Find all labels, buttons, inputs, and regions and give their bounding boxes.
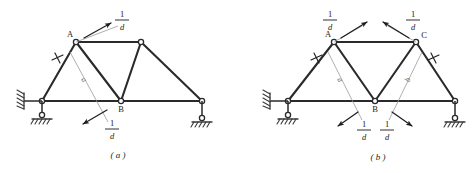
svg-text:d: d bbox=[362, 132, 367, 142]
right-diagonal-b bbox=[416, 42, 455, 101]
diagonal-ab-a bbox=[76, 42, 121, 101]
force-arrow-lower-panel-a bbox=[83, 110, 107, 124]
caption-panel-a: ( a ) bbox=[111, 150, 126, 160]
force-label-lower-left-panel-b: 1 d bbox=[357, 119, 371, 142]
svg-text:1: 1 bbox=[328, 9, 332, 19]
force-arrow-lower-right-panel-b bbox=[392, 112, 412, 126]
force-label-upper-right-panel-b: 1 d bbox=[406, 9, 420, 32]
svg-text:1: 1 bbox=[362, 119, 366, 129]
guide-line-upper-panel-a bbox=[76, 26, 118, 42]
right-diagonal-a bbox=[141, 42, 202, 101]
diagonal-bc-b bbox=[375, 42, 416, 101]
force-arrow-lower-left-panel-b bbox=[338, 112, 358, 126]
tick-mark-panel-a bbox=[52, 53, 63, 63]
svg-text:d: d bbox=[328, 22, 333, 32]
force-label-lower-right-panel-b: 1 d bbox=[380, 119, 394, 142]
joint-b-panel-b bbox=[372, 98, 377, 103]
panel-b: A B C a b 1 d 1 d 1 d bbox=[263, 9, 465, 162]
right-support-panel-a bbox=[191, 101, 212, 127]
guide-line-b-panel-b bbox=[389, 52, 422, 120]
left-diagonal-b bbox=[288, 42, 334, 101]
svg-text:d: d bbox=[110, 131, 115, 141]
diagonal-b-top-a bbox=[121, 42, 141, 101]
guide-line-a-panel-a bbox=[70, 52, 108, 122]
left-diagonal-a bbox=[42, 42, 76, 101]
member-label-a-panel-a: a bbox=[79, 76, 89, 84]
svg-text:1: 1 bbox=[120, 9, 124, 19]
member-label-b-panel-b: b bbox=[403, 76, 413, 84]
force-label-lower-panel-a: 1 d bbox=[105, 118, 119, 141]
figure-root: A B a 1 d 1 d ( a ) bbox=[0, 0, 475, 173]
force-label-upper-panel-a: 1 d bbox=[115, 9, 129, 32]
force-arrow-upper-left-panel-b bbox=[341, 22, 367, 38]
node-label-a-panel-a: A bbox=[67, 29, 74, 39]
svg-text:1: 1 bbox=[411, 9, 415, 19]
truss-figure-svg: A B a 1 d 1 d ( a ) bbox=[0, 0, 475, 173]
panel-a: A B a 1 d 1 d ( a ) bbox=[17, 9, 212, 160]
joint-b-panel-a bbox=[118, 98, 123, 103]
right-support-panel-b bbox=[444, 101, 465, 127]
svg-text:1: 1 bbox=[110, 118, 114, 128]
svg-text:d: d bbox=[411, 22, 416, 32]
joint-top-right-panel-a bbox=[138, 39, 143, 44]
left-support-panel-a bbox=[17, 90, 52, 124]
svg-text:1: 1 bbox=[385, 119, 389, 129]
guide-line-a-panel-b bbox=[328, 52, 362, 120]
svg-text:d: d bbox=[385, 132, 390, 142]
diagonal-ab-b bbox=[334, 42, 375, 101]
svg-text:d: d bbox=[120, 22, 125, 32]
caption-panel-b: ( b ) bbox=[371, 152, 386, 162]
node-label-b-panel-a: B bbox=[118, 104, 124, 114]
force-arrow-upper-right-panel-b bbox=[383, 22, 409, 38]
node-label-b-panel-b: B bbox=[372, 104, 378, 114]
node-label-c-panel-b: C bbox=[421, 30, 427, 40]
